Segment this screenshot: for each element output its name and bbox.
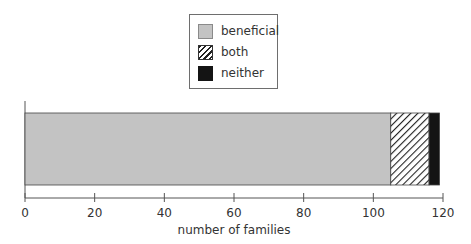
x-tick-label: 60 [226, 206, 241, 220]
x-axis-label: number of families [178, 223, 291, 237]
x-tick-label: 100 [362, 206, 385, 220]
x-axis-ticks: 020406080100120 [21, 193, 454, 220]
x-tick-label: 40 [157, 206, 172, 220]
bar-segment-both [391, 113, 429, 185]
chart-plot: 020406080100120 number of families [0, 0, 471, 244]
bar-segment-neither [429, 113, 439, 185]
x-tick-label: 0 [21, 206, 29, 220]
bar-segment-beneficial [25, 113, 391, 185]
stacked-bar [25, 113, 440, 185]
x-tick-label: 20 [87, 206, 102, 220]
x-tick-label: 120 [432, 206, 455, 220]
x-tick-label: 80 [296, 206, 311, 220]
